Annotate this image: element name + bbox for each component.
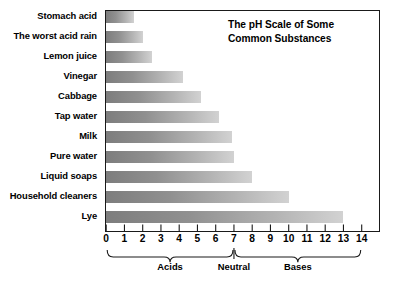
bar-stomach-acid [106, 11, 133, 23]
range-brace [107, 250, 233, 262]
range-braces [107, 248, 361, 262]
tick-label: 1 [114, 233, 134, 245]
tick-label: 12 [315, 233, 335, 245]
category-label: The worst acid rain [13, 30, 97, 42]
category-label: Vinegar [63, 70, 97, 82]
tick-label: 3 [151, 233, 171, 245]
bar-liquid-soaps [106, 171, 252, 183]
range-label: Acids [135, 261, 205, 272]
bar-milk [106, 131, 232, 143]
category-label: Household cleaners [10, 190, 97, 202]
range-label: Neutral [199, 261, 269, 272]
tick-label: 6 [206, 233, 226, 245]
bar-household-cleaners [106, 191, 289, 203]
category-label: Tap water [55, 110, 97, 122]
category-axis-labels: Stomach acid The worst acid rain Lemon j… [0, 10, 101, 231]
tick-label: 14 [352, 233, 372, 245]
chart-title: The pH Scale of Some Common Substances [228, 18, 373, 45]
chart-title-line-2: Common Substances [228, 32, 373, 46]
category-label: Lye [81, 210, 97, 222]
tick-label: 9 [260, 233, 280, 245]
bar-lye [106, 211, 343, 223]
tick-label: 7 [224, 233, 244, 245]
tick-label: 11 [297, 233, 317, 245]
range-label: Bases [263, 261, 333, 272]
category-label: Lemon juice [43, 50, 97, 62]
category-label: Pure water [50, 150, 97, 162]
category-label: Liquid soaps [40, 170, 97, 182]
category-label: Milk [79, 130, 97, 142]
category-label: Stomach acid [37, 10, 97, 22]
tick-label: 13 [333, 233, 353, 245]
bar-vinegar [106, 71, 183, 83]
range-brace [235, 250, 361, 262]
bar-pure-water [106, 151, 234, 163]
bar-cabbage [106, 91, 201, 103]
category-label: Cabbage [58, 90, 97, 102]
tick-label: 10 [279, 233, 299, 245]
tick-label: 2 [133, 233, 153, 245]
bar-lemon-juice [106, 51, 152, 63]
tick-label: 5 [187, 233, 207, 245]
tick-label: 4 [169, 233, 189, 245]
bar-tap-water [106, 111, 219, 123]
tick-label: 0 [96, 233, 116, 245]
bar-worst-acid-rain [106, 31, 143, 43]
chart-title-line-1: The pH Scale of Some [228, 18, 373, 32]
ph-scale-chart: Stomach acid The worst acid rain Lemon j… [0, 0, 398, 284]
tick-label: 8 [242, 233, 262, 245]
